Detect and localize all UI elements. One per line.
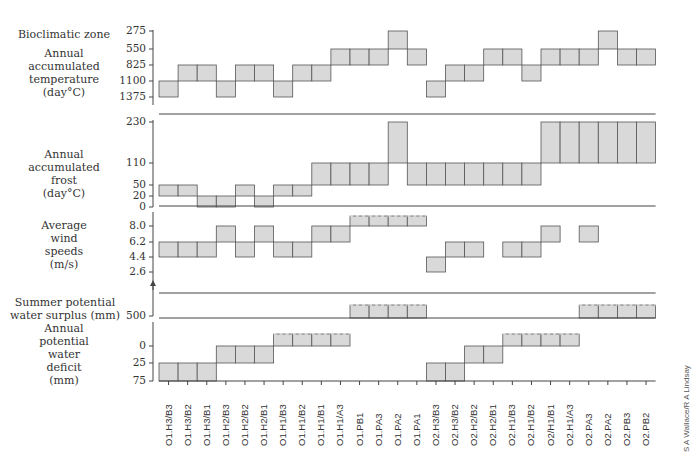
x-tick-label: O1.H1/A3 xyxy=(334,404,345,446)
x-tick-label: O1.H3/B1 xyxy=(201,404,212,446)
x-tick-label: O1.H3/B2 xyxy=(182,404,193,446)
tick-label: 1100 xyxy=(106,74,146,86)
tick-label: 1375 xyxy=(106,90,146,102)
x-tick-label: O2.H1/B3 xyxy=(506,404,517,446)
x-tick-label: O1.PB1 xyxy=(354,413,365,446)
plot-area xyxy=(0,0,700,464)
tick-label: 75 xyxy=(106,374,146,386)
x-tick-label: O2.H1/B2 xyxy=(525,404,536,446)
x-tick-label: O1.H1/B3 xyxy=(277,404,288,446)
x-tick-label: O1.H1/B1 xyxy=(315,404,326,446)
tick-label: 4.4 xyxy=(106,250,146,262)
x-tick-label: O1.PA1 xyxy=(411,413,422,446)
x-tick-label: O2.PB2 xyxy=(640,413,651,446)
x-tick-label: O2/H1/B1 xyxy=(545,404,556,446)
x-tick-label: O2.H3/B2 xyxy=(449,404,460,446)
tick-label: 6.2 xyxy=(106,235,146,247)
tick-label: 2.6 xyxy=(106,265,146,277)
x-tick-label: O1.H1/B2 xyxy=(296,404,307,446)
tick-label: 230 xyxy=(106,115,146,127)
x-tick-label: O1.H2/B2 xyxy=(239,404,250,446)
tick-label: 825 xyxy=(106,58,146,70)
tick-label: 500 xyxy=(106,309,146,321)
tick-label: 0 xyxy=(106,200,146,212)
x-tick-label: O1.PA2 xyxy=(392,413,403,446)
tick-label: 8.0 xyxy=(106,219,146,231)
x-tick-label: O1.H2/B1 xyxy=(258,404,269,446)
tick-label: 0 xyxy=(106,339,146,351)
x-tick-label: O2.PA2 xyxy=(602,413,613,446)
x-tick-label: O2.H1/A3 xyxy=(564,404,575,446)
x-tick-label: O1.H2/B3 xyxy=(220,404,231,446)
tick-label: 25 xyxy=(106,356,146,368)
x-tick-label: O2.H2/B1 xyxy=(487,404,498,446)
x-tick-label: O2.H3/B3 xyxy=(430,404,441,446)
x-tick-label: O1.PA3 xyxy=(373,413,384,446)
tick-label: 275 xyxy=(106,24,146,36)
credit-text: S A Wallace/R A Lindsay xyxy=(682,365,691,452)
climate-chart: Bioclimatic zone Annualaccumulatedtemper… xyxy=(0,0,700,464)
tick-label: 110 xyxy=(106,156,146,168)
x-tick-label: O2.PB3 xyxy=(621,413,632,446)
x-tick-label: O1.H3/B3 xyxy=(163,404,174,446)
tick-label: 550 xyxy=(106,42,146,54)
x-tick-label: O2.PA3 xyxy=(583,413,594,446)
x-tick-label: O2.H2/B2 xyxy=(468,404,479,446)
